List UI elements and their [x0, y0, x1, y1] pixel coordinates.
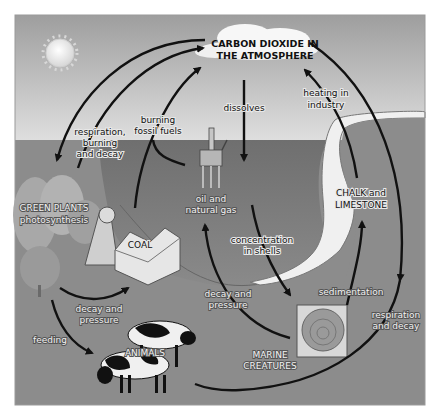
- label-chalk-line1: CHALK and: [336, 188, 386, 198]
- atmosphere-title-line2: THE ATMOSPHERE: [217, 50, 314, 61]
- label-heating-line1: heating in: [303, 88, 348, 98]
- label-burning-line1: burning: [141, 115, 176, 125]
- label-animals: ANIMALS: [125, 348, 165, 358]
- ammonite-fossil-icon: [297, 305, 347, 357]
- label-decay-pressure-mid-line2: pressure: [209, 300, 248, 310]
- label-marine-line2: CREATURES: [243, 361, 297, 371]
- label-photosynthesis: photosynthesis: [20, 215, 89, 225]
- label-chalk-line2: LIMESTONE: [335, 200, 387, 210]
- label-concentration-line1: concentration: [231, 235, 293, 245]
- label-decay-pressure-left-line2: pressure: [80, 315, 119, 325]
- label-oil-line2: natural gas: [186, 205, 237, 215]
- label-respiration-line3: and decay: [77, 149, 125, 159]
- label-concentration-line2: in shells: [244, 246, 281, 256]
- label-oil-line1: oil and: [196, 194, 226, 204]
- label-coal: COAL: [128, 240, 152, 250]
- label-decay-pressure-mid-line1: decay and: [205, 289, 252, 299]
- carbon-cycle-diagram: CARBON DIOXIDE IN THE ATMOSPHERE: [0, 0, 440, 417]
- label-burning-line2: fossil fuels: [134, 126, 182, 136]
- label-respiration-decay-line1: respiration: [372, 310, 420, 320]
- label-respiration-line1: respiration,: [74, 127, 125, 137]
- label-feeding: feeding: [33, 335, 67, 345]
- label-respiration-line2: burning: [83, 138, 118, 148]
- label-sedimentation: sedimentation: [319, 287, 384, 297]
- label-green-plants: GREEN PLANTS: [20, 203, 89, 213]
- label-marine-line1: MARINE: [252, 350, 288, 360]
- label-heating-line2: industry: [308, 100, 346, 110]
- label-dissolves: dissolves: [223, 103, 264, 113]
- atmosphere-title-line1: CARBON DIOXIDE IN: [211, 38, 318, 49]
- label-respiration-decay-line2: and decay: [373, 321, 421, 331]
- label-decay-pressure-left-line1: decay and: [76, 304, 123, 314]
